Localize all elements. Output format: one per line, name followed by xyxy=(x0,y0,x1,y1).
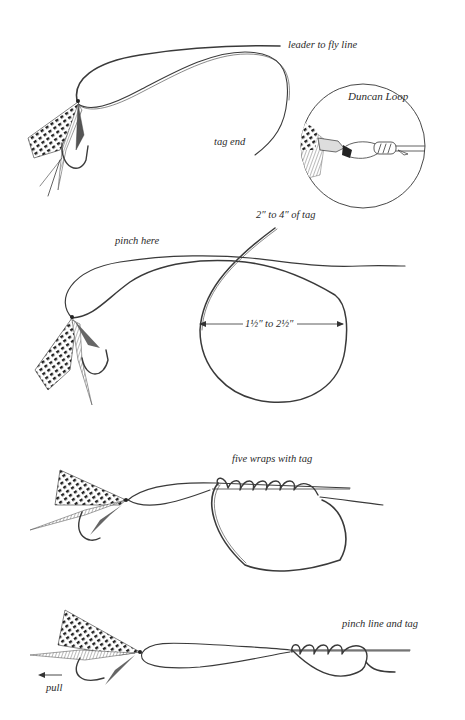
four-wraps xyxy=(290,645,410,662)
label-pull: pull xyxy=(46,683,62,694)
label-five-wraps: five wraps with tag xyxy=(232,454,312,465)
step-3 xyxy=(30,470,383,571)
diagram-artwork xyxy=(0,0,465,720)
label-leader-to-fly-line: leader to fly line xyxy=(288,40,357,51)
duncan-loop-diagram: leader to fly line tag end Duncan Loop p… xyxy=(0,0,465,720)
step-1 xyxy=(28,46,445,208)
label-loop-diameter: 1½″ to 2½″ xyxy=(245,319,293,330)
step-2 xyxy=(35,228,405,405)
fly-illustration-4 xyxy=(30,610,142,685)
label-tag-length: 2″ to 4″ of tag xyxy=(256,210,316,221)
label-pinch-line-and-tag: pinch line and tag xyxy=(342,619,418,630)
label-tag-end: tag end xyxy=(214,137,245,148)
label-pinch-here: pinch here xyxy=(115,236,159,247)
fly-illustration-3 xyxy=(30,470,128,540)
fly-illustration-1 xyxy=(28,99,88,196)
duncan-loop-inset xyxy=(300,84,445,208)
pull-arrow xyxy=(38,672,62,678)
inset-title-duncan-loop: Duncan Loop xyxy=(348,91,408,102)
fly-illustration-2 xyxy=(35,315,108,405)
five-wraps xyxy=(212,478,350,495)
